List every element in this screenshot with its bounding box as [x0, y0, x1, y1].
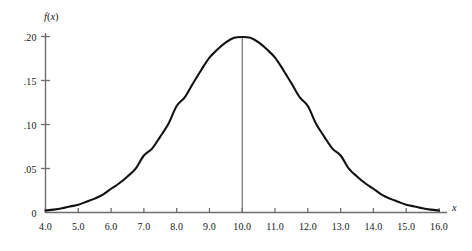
y-tick-label: .10: [0, 119, 37, 130]
y-tick-label: 0: [0, 207, 37, 218]
y-tick-label: .15: [0, 75, 37, 86]
x-tick-label: 8.0: [170, 221, 183, 232]
x-tick-label: 9.0: [203, 221, 216, 232]
x-axis-label: x: [452, 202, 457, 213]
axes-group: [45, 33, 447, 213]
x-tick-label: 6.0: [105, 221, 118, 232]
x-tick-label: 15.0: [397, 221, 415, 232]
x-tick-label: 14.0: [364, 221, 382, 232]
x-tick-label: 12.0: [299, 221, 317, 232]
plot-area: [0, 0, 472, 251]
y-axis-label: f(x): [44, 11, 59, 22]
x-tick-label: 10.0: [233, 221, 251, 232]
normal-distribution-figure: 4.05.06.07.08.09.010.011.012.013.014.015…: [0, 0, 472, 251]
x-tick-label: 7.0: [137, 221, 150, 232]
x-tick-label: 11.0: [266, 221, 284, 232]
x-tick-label: 4.0: [39, 221, 52, 232]
y-tick-label: .05: [0, 163, 37, 174]
y-tick-label: .20: [0, 31, 37, 42]
x-tick-label: 13.0: [332, 221, 350, 232]
x-tick-label: 5.0: [72, 221, 85, 232]
x-tick-label: 16.0: [430, 221, 448, 232]
